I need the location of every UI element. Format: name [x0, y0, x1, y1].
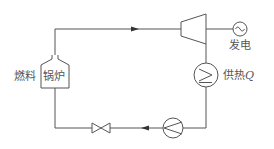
boiler-label: 锅炉	[43, 70, 65, 83]
generator-icon	[233, 22, 247, 36]
feedwater-pipe-left	[55, 88, 92, 128]
flow-arrow-right-icon	[131, 27, 139, 32]
heat-supply-label: 供热Q	[223, 68, 254, 82]
valve-icon	[92, 123, 110, 133]
turbine-icon	[181, 14, 206, 44]
flow-arrow-left-icon	[141, 126, 149, 131]
fuel-label: 燃料	[14, 69, 36, 83]
pump-icon	[163, 118, 183, 138]
generator-label: 发电	[229, 38, 251, 52]
heat-exchanger-icon	[194, 63, 218, 87]
steam-pipe-top	[55, 29, 181, 55]
cogeneration-diagram: 发电 供热Q 锅炉 燃料	[0, 0, 274, 149]
condensate-pipe-right	[183, 87, 206, 128]
